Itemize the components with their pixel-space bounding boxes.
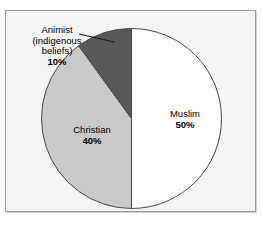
pie-value-animist: 10% <box>14 57 100 68</box>
figure-frame: Animist (indigenous beliefs) 10% Christi… <box>5 10 256 212</box>
pie-chart-plot-area: Animist (indigenous beliefs) 10% Christi… <box>6 11 255 211</box>
pie-value-muslim: 50% <box>153 120 217 131</box>
pie-value-christian: 40% <box>56 136 128 147</box>
pie-label-christian: Christian 40% <box>56 125 128 146</box>
pie-label-muslim: Muslim 50% <box>153 109 217 130</box>
clipped-caption-text: Illustration <box>6 0 126 2</box>
pie-label-animist: Animist (indigenous beliefs) 10% <box>14 25 100 68</box>
